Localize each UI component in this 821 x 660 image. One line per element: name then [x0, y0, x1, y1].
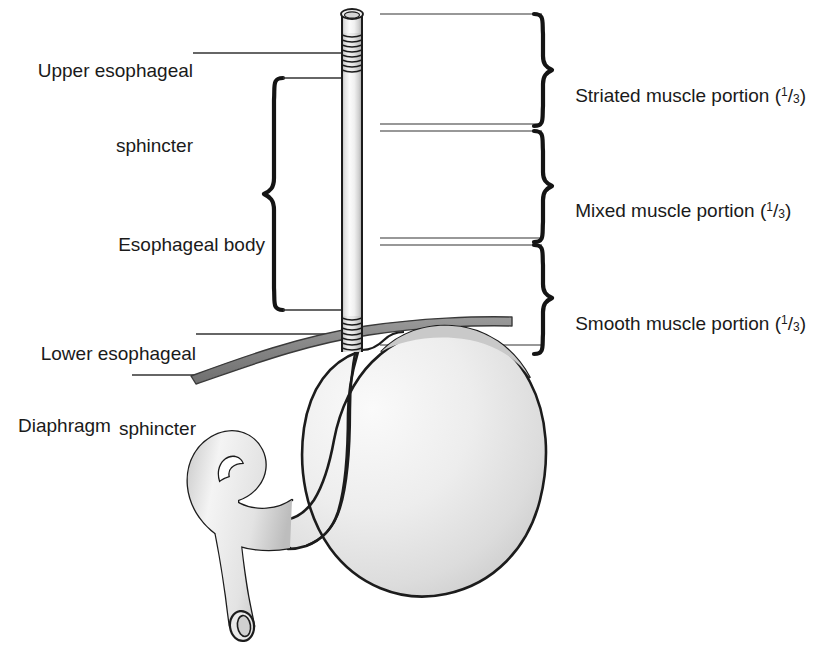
label-upper-esophageal-sphincter: Upper esophageal sphincter [18, 8, 193, 208]
lower-esophageal-sphincter-rings [342, 316, 362, 352]
stomach-group [188, 326, 550, 643]
label-striated-numerator: 1 [781, 85, 788, 99]
label-mixed-denominator: 3 [778, 207, 785, 221]
brace-striated [534, 14, 552, 126]
label-ues-line1: Upper esophageal [18, 58, 193, 83]
label-esophageal-body-line1: Esophageal body [60, 232, 265, 257]
label-smooth-muscle-portion: Smooth muscle portion (1/3) [554, 286, 806, 361]
label-smooth-numerator: 1 [781, 313, 788, 327]
brace-mixed [534, 131, 552, 242]
brace-esophageal-body-shape [264, 78, 283, 310]
label-mixed-close: ) [785, 200, 791, 221]
section-divider-lines [380, 14, 542, 345]
label-striated-muscle-portion: Striated muscle portion (1/3) [554, 58, 806, 133]
anatomy-figure: Upper esophageal sphincter Esophageal bo… [0, 0, 821, 660]
brace-esophageal-body [264, 78, 344, 310]
esophagus-tube [341, 9, 404, 352]
label-smooth-denominator: 3 [793, 320, 800, 334]
esophagus-top-rim-inner [345, 12, 360, 18]
label-smooth-text: Smooth muscle portion ( [575, 313, 781, 334]
label-diaphragm: Diaphragm [18, 363, 111, 488]
label-smooth-close: ) [800, 313, 806, 334]
label-striated-denominator: 3 [793, 92, 800, 106]
upper-esophageal-sphincter-rings [342, 33, 362, 74]
label-mixed-text: Mixed muscle portion ( [575, 200, 766, 221]
duodenum-fill [188, 431, 292, 626]
label-diaphragm-line1: Diaphragm [18, 413, 111, 438]
label-striated-text: Striated muscle portion ( [575, 85, 781, 106]
label-mixed-muscle-portion: Mixed muscle portion (1/3) [554, 173, 791, 248]
label-mixed-numerator: 1 [766, 200, 773, 214]
right-braces [534, 14, 552, 354]
stomach-body [286, 330, 546, 597]
label-ues-line2: sphincter [18, 133, 193, 158]
label-esophageal-body: Esophageal body [60, 182, 265, 307]
brace-smooth [534, 245, 552, 354]
label-striated-close: ) [800, 85, 806, 106]
